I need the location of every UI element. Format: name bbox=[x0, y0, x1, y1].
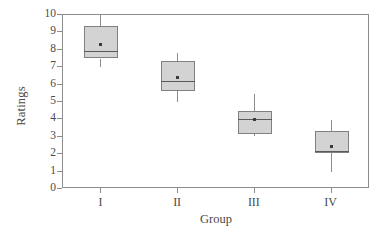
y-axis-tick-label: 2 bbox=[34, 147, 56, 159]
boxplot-glyph bbox=[225, 15, 285, 189]
y-axis-tick-labels: 012345678910 bbox=[30, 0, 56, 238]
x-axis-tick-mark bbox=[254, 188, 255, 193]
y-axis-tick-label: 10 bbox=[34, 8, 56, 20]
y-axis-tick-label: 4 bbox=[34, 113, 56, 125]
boxplot-glyph bbox=[302, 15, 362, 189]
x-axis-tick-mark bbox=[331, 188, 332, 193]
y-axis-tick-label: 7 bbox=[34, 60, 56, 72]
x-axis-tick-mark bbox=[100, 188, 101, 193]
boxplot-glyph bbox=[148, 15, 208, 189]
x-axis-tick-labels: IIIIIIIV bbox=[62, 195, 369, 211]
boxplot-glyph bbox=[71, 15, 131, 189]
y-axis-tick-label: 6 bbox=[34, 78, 56, 90]
boxplot-figure: Ratings 012345678910 IIIIIIIV Group bbox=[0, 0, 383, 238]
x-axis-tick-mark bbox=[177, 188, 178, 193]
median-line bbox=[315, 151, 349, 152]
x-axis-tick-label: I bbox=[80, 195, 120, 210]
x-axis-tick-marks bbox=[62, 188, 369, 194]
y-axis-tick-label: 1 bbox=[34, 165, 56, 177]
y-axis-tick-label: 9 bbox=[34, 26, 56, 38]
plot-area bbox=[62, 14, 369, 188]
whisker-lower bbox=[100, 59, 101, 68]
x-axis-tick-label: III bbox=[234, 195, 274, 210]
whisker-upper bbox=[254, 94, 255, 111]
whisker-upper bbox=[177, 53, 178, 61]
x-axis-tick-label: IV bbox=[311, 195, 351, 210]
x-axis-tick-label: II bbox=[157, 195, 197, 210]
median-line bbox=[84, 51, 118, 52]
median-line bbox=[161, 81, 195, 82]
whisker-lower bbox=[177, 91, 178, 102]
mean-marker bbox=[330, 145, 333, 148]
whisker-lower bbox=[254, 134, 255, 136]
whisker-upper bbox=[331, 120, 332, 130]
whisker-upper bbox=[100, 15, 101, 26]
y-axis-tick-label: 8 bbox=[34, 43, 56, 55]
y-axis-tick-label: 0 bbox=[34, 182, 56, 194]
mean-marker bbox=[253, 118, 256, 121]
whisker-lower bbox=[331, 153, 332, 171]
y-axis-tick-label: 3 bbox=[34, 130, 56, 142]
mean-marker bbox=[176, 76, 179, 79]
box-iqr bbox=[238, 111, 272, 134]
y-axis-tick-label: 5 bbox=[34, 95, 56, 107]
x-axis-title: Group bbox=[62, 212, 370, 227]
mean-marker bbox=[99, 43, 102, 46]
